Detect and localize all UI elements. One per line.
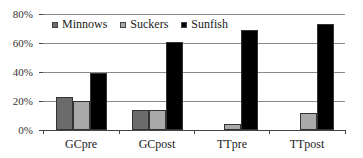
legend: Minnows Suckers Sunfish	[52, 17, 241, 32]
legend-swatch-suckers	[120, 22, 126, 28]
y-axis-tick	[39, 101, 43, 102]
x-axis-tick	[345, 130, 346, 134]
x-label-ttpost: TTpost	[269, 137, 345, 152]
x-label-ttpre: TTpre	[194, 137, 270, 152]
y-tick-label-60: 60%	[0, 37, 33, 49]
bar-sunfish-gcpost	[166, 42, 183, 130]
y-tick-label-80: 80%	[0, 8, 33, 20]
y-tick-label-40: 40%	[0, 66, 33, 78]
bar-chart: 80% 60% 40% 20% 0% GCpre GCpost TTpre TT…	[0, 0, 363, 158]
x-axis-tick	[43, 130, 44, 134]
y-axis-tick	[39, 14, 43, 15]
y-tick-label-20: 20%	[0, 95, 33, 107]
y-axis-tick	[39, 43, 43, 44]
legend-label-minnows: Minnows	[62, 17, 107, 32]
gridline-40	[43, 72, 345, 73]
bar-minnows-gcpost	[132, 110, 149, 130]
bar-sunfish-gcpre	[90, 73, 107, 130]
gridline-60	[43, 43, 345, 44]
bar-sunfish-ttpost	[317, 24, 334, 130]
bar-suckers-gcpost	[149, 110, 166, 130]
legend-item-minnows: Minnows	[52, 17, 107, 32]
bar-suckers-ttpost	[300, 113, 317, 130]
bar-sunfish-ttpre	[241, 30, 258, 130]
legend-swatch-minnows	[52, 22, 58, 28]
y-axis-tick	[39, 72, 43, 73]
x-axis-tick	[194, 130, 195, 134]
legend-item-sunfish: Sunfish	[181, 17, 228, 32]
bar-minnows-gcpre	[56, 97, 73, 130]
bar-suckers-gcpre	[73, 101, 90, 130]
x-label-gcpost: GCpost	[119, 137, 195, 152]
y-tick-label-0: 0%	[0, 124, 33, 136]
legend-label-sunfish: Sunfish	[191, 17, 228, 32]
x-label-gcpre: GCpre	[43, 137, 119, 152]
legend-label-suckers: Suckers	[130, 17, 168, 32]
gridline-80	[43, 14, 345, 15]
legend-swatch-sunfish	[181, 22, 187, 28]
legend-item-suckers: Suckers	[120, 17, 168, 32]
x-axis-tick	[269, 130, 270, 134]
x-axis-tick	[119, 130, 120, 134]
